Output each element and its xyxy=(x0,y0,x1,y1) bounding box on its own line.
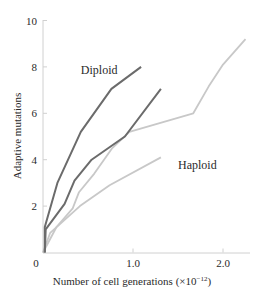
x-axis-label-close: ) xyxy=(207,275,211,288)
y-tick-label: 4 xyxy=(32,154,38,166)
diploid-label: Diploid xyxy=(81,63,118,77)
axes xyxy=(43,20,250,253)
y-tick-label: 8 xyxy=(32,61,38,73)
x-tick-label: 2.0 xyxy=(216,257,230,269)
x-axis-label-main: Number of cell generations ( xyxy=(53,275,180,288)
y-tick-label: 10 xyxy=(26,15,38,27)
haploid-series-line xyxy=(43,157,161,252)
x-axis-label-base: 10 xyxy=(186,275,198,287)
haploid-label: Haploid xyxy=(178,158,217,172)
y-tick-label: 6 xyxy=(32,107,38,119)
series-annotations: DiploidHaploid xyxy=(81,63,217,172)
y-tick-label: 2 xyxy=(32,200,38,212)
x-ticks: 01.02.0 xyxy=(33,249,230,270)
series-lines xyxy=(43,39,246,252)
x-axis-label: Number of cell generations (×10−12) xyxy=(53,275,212,288)
y-ticks: 246810 xyxy=(26,15,47,213)
line-chart: 246810 01.02.0 DiploidHaploid Adaptive m… xyxy=(0,0,260,297)
y-axis-label: Adaptive mutations xyxy=(11,93,23,179)
x-tick-label: 0 xyxy=(33,257,39,269)
x-tick-label: 1.0 xyxy=(126,257,140,269)
x-axis-label-exponent: −12 xyxy=(197,275,208,283)
